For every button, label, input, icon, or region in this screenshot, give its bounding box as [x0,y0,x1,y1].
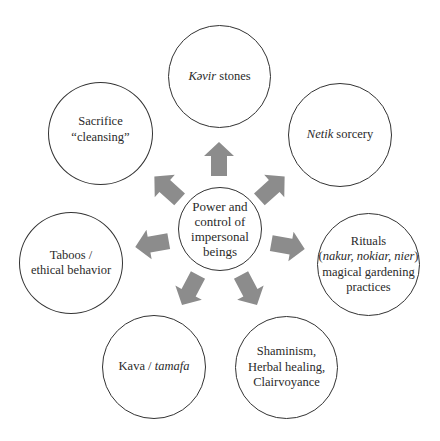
node-taboos: Taboos / ethical behavior [19,212,123,314]
arrow-left-icon [133,226,172,261]
rituals-line-1: Rituals [319,234,419,250]
rituals-line-3: magical gardening [319,265,419,281]
node-netik-sorcery: Netik sorcery [288,83,392,187]
kava-plain: Kava / [119,359,155,373]
node-sacrifice: Sacrifice “cleansing” [48,82,153,185]
node-rituals: Rituals (nakur, nokiar, nier) magical ga… [317,213,420,316]
arrow-up-icon [204,142,234,176]
arrow-down-left-icon [169,268,211,312]
shaminism-line-1: Shaminism, [248,344,325,360]
rituals-line-4: practices [319,280,419,296]
node-kava: Kava / tamafa [102,315,206,419]
arrow-up-left-icon [144,165,189,210]
sacrifice-line-2: “cleansing” [71,130,129,146]
arrow-down-right-icon [228,268,270,312]
netik-rest: sorcery [333,127,373,141]
center-line-4: beings [191,244,249,259]
arrow-right-icon [269,228,308,263]
node-shaminism: Shaminism, Herbal healing, Clairvoyance [235,316,338,419]
netik-italic: Netik [307,127,333,141]
arrow-up-right-icon [249,165,294,210]
sacrifice-line-1: Sacrifice [71,114,129,130]
center-line-1: Power and [191,199,249,214]
shaminism-line-2: Herbal healing, [248,360,325,376]
center-line-2: control of [191,214,249,229]
taboos-line-2: ethical behavior [31,263,111,279]
taboos-line-1: Taboos / [31,248,111,264]
kavir-rest: stones [216,69,250,83]
center-line-3: impersonal [191,229,249,244]
node-kavir-stones: Kəvir stones [168,25,271,128]
kavir-italic: Kəvir [188,69,216,83]
rituals-line-2: (nakur, nokiar, nier) [319,249,419,265]
shaminism-line-3: Clairvoyance [248,375,325,391]
center-node: Power and control of impersonal beings [178,187,262,271]
kava-italic: tamafa [155,359,190,373]
